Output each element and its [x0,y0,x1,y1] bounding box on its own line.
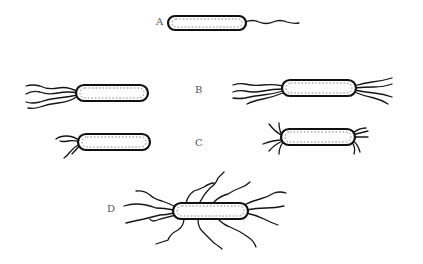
bacterium-c-left [56,134,150,158]
bacterium-b-left-lophotrichous [26,85,148,108]
bacterium-a-monotrichous [168,16,299,30]
bacterium-d-peritrichous [124,172,286,249]
bacterium-c-right [263,123,368,154]
bacterium-b-right-lophotrichous [233,78,392,104]
flagella-diagram [0,0,423,264]
